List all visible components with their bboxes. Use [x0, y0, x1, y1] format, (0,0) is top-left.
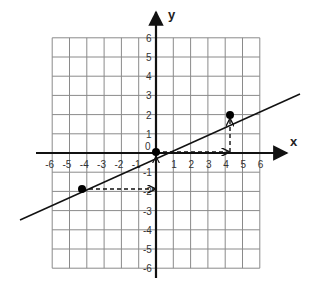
y-tick-label: 6: [146, 33, 152, 44]
coordinate-graph: -6-5-4-3-2-1123456654321-1-2-3-4-5-6 x y…: [0, 0, 315, 289]
x-tick-label: -6: [45, 159, 54, 170]
x-tick-label: 5: [241, 159, 247, 170]
y-tick-label: -1: [143, 167, 152, 178]
plotted-line: [20, 94, 300, 220]
x-tick-label: 4: [223, 159, 229, 170]
y-tick-label: 4: [146, 71, 152, 82]
y-tick-label: 1: [146, 129, 152, 140]
y-tick-label: -5: [143, 244, 152, 255]
y-tick-label: 2: [146, 110, 152, 121]
x-axis-label: x: [290, 134, 298, 149]
x-tick-label: 3: [206, 159, 212, 170]
x-tick-label: -4: [80, 159, 89, 170]
point-4-2: [226, 111, 234, 119]
y-tick-label: -3: [143, 206, 152, 217]
x-tick-label: -5: [63, 159, 72, 170]
y-tick-label: -2: [143, 186, 152, 197]
y-axis-label: y: [168, 7, 176, 22]
y-tick-label: -4: [143, 225, 152, 236]
y-tick-label: -6: [143, 263, 152, 274]
x-tick-label: -3: [97, 159, 106, 170]
origin-label: 0: [145, 141, 151, 152]
point-origin: [152, 148, 160, 156]
x-tick-label: 6: [258, 159, 264, 170]
x-tick-label: -2: [114, 159, 123, 170]
y-tick-label: 3: [146, 90, 152, 101]
x-tick-label: 2: [189, 159, 195, 170]
y-tick-label: 5: [146, 52, 152, 63]
point-neg4-neg2: [78, 185, 86, 193]
x-tick-label: 1: [171, 159, 177, 170]
